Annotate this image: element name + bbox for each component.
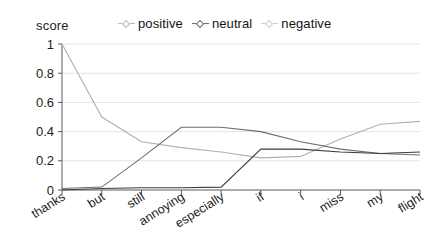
svg-text:miss: miss bbox=[317, 190, 346, 215]
svg-text:still: still bbox=[124, 190, 147, 211]
svg-text:but: but bbox=[85, 189, 108, 210]
series-line-positive bbox=[62, 44, 420, 158]
svg-text:0.8: 0.8 bbox=[36, 66, 54, 81]
x-tick-marks bbox=[62, 190, 420, 194]
chart-container: score positive neutral negative 00.20.40… bbox=[0, 0, 439, 252]
svg-text:1: 1 bbox=[47, 37, 54, 52]
svg-text:0.4: 0.4 bbox=[36, 124, 54, 139]
svg-text:0.6: 0.6 bbox=[36, 95, 54, 110]
svg-text:if: if bbox=[254, 189, 267, 204]
series-line-neutral bbox=[62, 127, 420, 188]
svg-text:flight: flight bbox=[396, 189, 426, 215]
x-tick-labels: thanksbutstillannoyingespeciallyifimissm… bbox=[29, 189, 426, 230]
svg-text:my: my bbox=[364, 189, 386, 210]
plot-area: 00.20.40.60.81 thanksbutstillannoyingesp… bbox=[0, 0, 439, 252]
line-chart-svg: 00.20.40.60.81 thanksbutstillannoyingesp… bbox=[0, 0, 439, 252]
y-tick-labels: 00.20.40.60.81 bbox=[36, 37, 54, 198]
y-tick-marks bbox=[58, 44, 62, 190]
gridlines bbox=[62, 44, 420, 161]
svg-text:i: i bbox=[296, 190, 306, 203]
data-series bbox=[62, 44, 420, 190]
svg-text:0.2: 0.2 bbox=[36, 153, 54, 168]
